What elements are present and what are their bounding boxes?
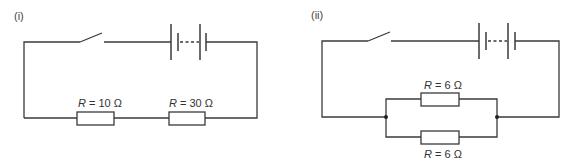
battery-icon-i bbox=[171, 24, 206, 60]
switch-lever-i bbox=[80, 33, 102, 42]
junction-node-left bbox=[384, 115, 388, 119]
circuit-i: (i) R = 10 Ω R = 30 Ω bbox=[14, 10, 257, 125]
branch-top-ii bbox=[386, 99, 421, 117]
battery-icon-ii bbox=[479, 23, 515, 59]
resistor-30-ohm bbox=[169, 112, 205, 125]
resistor-label-6-ohm-bottom: R = 6 Ω bbox=[424, 148, 462, 160]
panel-label-ii: (ii) bbox=[311, 9, 323, 21]
wire-right-ii bbox=[497, 41, 559, 117]
switch-lever-ii bbox=[368, 32, 390, 41]
resistor-6-ohm-bottom bbox=[421, 131, 459, 144]
panel-label-i: (i) bbox=[14, 10, 24, 22]
circuit-diagrams: (i) R = 10 Ω R = 30 Ω (ii) bbox=[0, 0, 570, 162]
resistor-label-6-ohm-top: R = 6 Ω bbox=[424, 79, 462, 91]
branch-top-right-ii bbox=[459, 99, 497, 117]
wire-left-top-i bbox=[24, 42, 80, 118]
resistor-6-ohm-top bbox=[421, 93, 459, 106]
resistor-10-ohm bbox=[77, 112, 114, 125]
resistor-label-10-ohm: R = 10 Ω bbox=[78, 97, 122, 109]
wire-left-ii bbox=[322, 41, 386, 117]
branch-bottom-ii bbox=[386, 117, 421, 137]
junction-node-right bbox=[495, 115, 499, 119]
branch-bottom-right-ii bbox=[459, 117, 497, 137]
circuit-ii: (ii) R = 6 Ω R = 6 Ω bbox=[311, 9, 559, 160]
resistor-label-30-ohm: R = 30 Ω bbox=[169, 97, 213, 109]
